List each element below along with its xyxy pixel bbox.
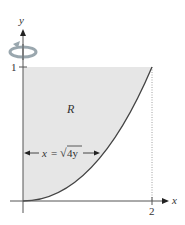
equation-radicand: 4y <box>67 147 79 159</box>
equation-equals: = <box>51 147 57 159</box>
equation-radical: √ <box>60 146 67 160</box>
region-r <box>23 67 152 201</box>
y-axis-label: y <box>18 14 24 26</box>
y-axis-arrow-icon <box>20 29 26 36</box>
x-axis-arrow-icon <box>162 198 169 204</box>
region-label: R <box>66 102 75 116</box>
equation-lhs: x <box>41 147 47 159</box>
x-tick-label: 2 <box>149 205 155 217</box>
y-tick-label: 1 <box>11 61 17 73</box>
solid-of-revolution-figure: x y 1 2 R x = √ 4y <box>0 0 185 225</box>
x-axis-label: x <box>171 194 177 206</box>
